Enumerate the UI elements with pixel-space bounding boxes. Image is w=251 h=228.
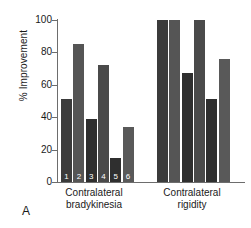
y-tick-label: 0 — [16, 177, 52, 187]
y-axis-ticks: 020406080100 — [0, 0, 52, 228]
figure-panel-a: % Improvement 020406080100 123456 Contra… — [0, 0, 251, 228]
bar: 1 — [61, 99, 72, 182]
y-tick-label: 80 — [16, 47, 52, 57]
bar-number-label: 3 — [86, 172, 97, 181]
category-label-rigidity: Contralateral rigidity — [146, 187, 238, 211]
bar — [169, 20, 180, 182]
bar-number-label: 5 — [110, 172, 121, 181]
category-label-line1: Contralateral — [146, 187, 238, 199]
bar-number-label: 4 — [98, 172, 109, 181]
bar — [206, 99, 217, 182]
bar: 2 — [73, 44, 84, 182]
plot-area: 123456 — [58, 20, 244, 182]
bar: 4 — [98, 65, 109, 182]
y-tick-label: 60 — [16, 80, 52, 90]
panel-letter: A — [22, 204, 30, 218]
category-label-line2: bradykinesia — [46, 199, 142, 211]
bar-number-label: 2 — [73, 172, 84, 181]
bar — [157, 20, 168, 182]
bar — [194, 20, 205, 182]
y-tick-label: 40 — [16, 112, 52, 122]
y-tick-label: 100 — [16, 15, 52, 25]
x-axis-line — [57, 182, 245, 183]
bar: 5 — [110, 158, 121, 182]
category-label-line1: Contralateral — [46, 187, 142, 199]
bar: 3 — [86, 119, 97, 182]
bar — [219, 59, 230, 182]
bar — [182, 73, 193, 182]
bar-number-label: 1 — [61, 172, 72, 181]
bar: 6 — [123, 127, 134, 182]
bar-group-rigidity — [157, 20, 231, 182]
bar-group-bradykinesia: 123456 — [61, 20, 135, 182]
category-label-bradykinesia: Contralateral bradykinesia — [46, 187, 142, 211]
bar-number-label: 6 — [123, 172, 134, 181]
category-label-line2: rigidity — [146, 199, 238, 211]
y-tick-label: 20 — [16, 145, 52, 155]
